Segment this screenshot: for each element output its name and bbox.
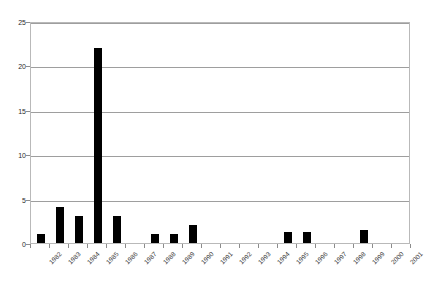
x-tick-label-1984: 1984 xyxy=(86,251,101,266)
x-tick-mark xyxy=(220,244,221,248)
y-tick-label: 20 xyxy=(18,63,26,70)
x-tick-label-1985: 1985 xyxy=(105,251,120,266)
x-tick-label-1996: 1996 xyxy=(314,251,329,266)
bars-series xyxy=(31,23,409,243)
bar-1990 xyxy=(189,225,197,243)
x-tick-label-1992: 1992 xyxy=(238,251,253,266)
x-tick-mark xyxy=(30,244,31,248)
x-tick-mark xyxy=(296,244,297,248)
x-tick-mark xyxy=(144,244,145,248)
bar-1996 xyxy=(303,232,311,243)
x-tick-label-1995: 1995 xyxy=(295,251,310,266)
x-tick-label-1989: 1989 xyxy=(181,251,196,266)
x-tick-label-1987: 1987 xyxy=(143,251,158,266)
x-tick-mark xyxy=(315,244,316,248)
x-axis: 1982198319841985198619871988198919901991… xyxy=(30,244,410,288)
x-tick-mark xyxy=(239,244,240,248)
x-tick-mark xyxy=(277,244,278,248)
y-tick-label: 15 xyxy=(18,107,26,114)
x-tick-label-1990: 1990 xyxy=(200,251,215,266)
x-tick-label-1994: 1994 xyxy=(276,251,291,266)
bar-1984 xyxy=(75,216,83,243)
x-tick-label-1998: 1998 xyxy=(352,251,367,266)
bar-1985 xyxy=(94,48,102,243)
x-tick-mark xyxy=(353,244,354,248)
y-tick-label: 25 xyxy=(18,19,26,26)
x-tick-label-1997: 1997 xyxy=(333,251,348,266)
plot-area xyxy=(30,22,410,244)
bar-1986 xyxy=(113,216,121,243)
bar-1995 xyxy=(284,232,292,243)
x-tick-mark xyxy=(125,244,126,248)
x-tick-label-2000: 2000 xyxy=(390,251,405,266)
bar-1999 xyxy=(360,230,368,243)
bar-1982 xyxy=(37,234,45,243)
x-tick-label-1988: 1988 xyxy=(162,251,177,266)
x-tick-mark xyxy=(49,244,50,248)
x-tick-mark xyxy=(391,244,392,248)
bar-1988 xyxy=(151,234,159,243)
x-tick-mark xyxy=(68,244,69,248)
x-tick-label-1991: 1991 xyxy=(219,251,234,266)
x-tick-label-1999: 1999 xyxy=(371,251,386,266)
x-tick-label-1983: 1983 xyxy=(67,251,82,266)
x-tick-label-1993: 1993 xyxy=(257,251,272,266)
x-tick-mark xyxy=(334,244,335,248)
bar-1983 xyxy=(56,207,64,243)
x-tick-mark xyxy=(201,244,202,248)
x-tick-mark xyxy=(106,244,107,248)
x-tick-mark xyxy=(258,244,259,248)
x-tick-label-1982: 1982 xyxy=(48,251,63,266)
x-tick-mark xyxy=(410,244,411,248)
x-tick-mark xyxy=(182,244,183,248)
y-axis: 0510152025 xyxy=(0,22,26,244)
x-tick-label-2001: 2001 xyxy=(409,251,424,266)
x-tick-label-1986: 1986 xyxy=(124,251,139,266)
x-tick-mark xyxy=(372,244,373,248)
bar-chart: 0510152025 19821983198419851986198719881… xyxy=(0,0,432,288)
y-tick-label: 10 xyxy=(18,152,26,159)
bar-1989 xyxy=(170,234,178,243)
x-tick-mark xyxy=(163,244,164,248)
x-tick-mark xyxy=(87,244,88,248)
